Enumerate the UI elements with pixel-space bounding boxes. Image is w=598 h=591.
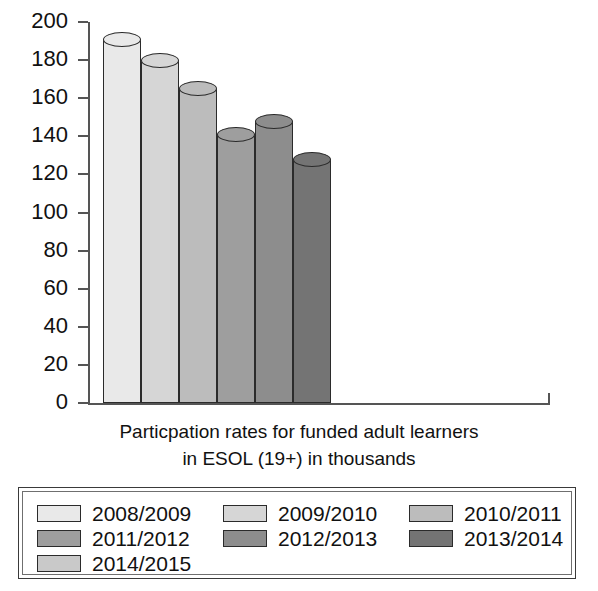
legend-label: 2010/2011	[464, 503, 562, 524]
bar-2012-2013	[255, 114, 293, 403]
y-axis-tick	[78, 21, 88, 23]
legend-label: 2013/2014	[464, 528, 563, 549]
legend-item-2012-2013: 2012/2013	[223, 528, 409, 549]
x-axis-line	[88, 403, 548, 405]
legend-item-2009-2010: 2009/2010	[223, 503, 409, 524]
x-axis-end-tick	[548, 393, 550, 405]
y-axis-tick-label: 180	[0, 48, 68, 70]
bar-body	[255, 121, 293, 403]
y-axis-tick-label: 160	[0, 86, 68, 108]
y-axis-tick-label: 120	[0, 162, 68, 184]
legend-swatch	[37, 530, 81, 547]
y-axis-tick	[78, 326, 88, 328]
bar-body	[293, 159, 331, 403]
y-axis-tick	[78, 59, 88, 61]
legend-item-2010-2011: 2010/2011	[409, 503, 585, 524]
bar-2008-2009	[103, 32, 141, 403]
chart-caption: Particpation rates for funded adult lear…	[0, 418, 598, 472]
legend-item-2014-2015: 2014/2015	[37, 553, 223, 574]
legend-swatch	[223, 505, 267, 522]
y-axis-tick-label: 140	[0, 124, 68, 146]
bar-body	[179, 89, 217, 403]
y-axis-tick-label: 20	[0, 353, 68, 375]
y-axis-tick	[78, 173, 88, 175]
chart-legend: 2008/20092009/20102010/20112011/20122012…	[18, 487, 576, 579]
bar-top-ellipse	[293, 152, 331, 167]
legend-label: 2011/2012	[92, 528, 190, 549]
y-axis-tick-label: 60	[0, 277, 68, 299]
bar-2013-2014	[293, 152, 331, 403]
y-axis-tick-label: 200	[0, 10, 68, 32]
y-axis-tick	[78, 212, 88, 214]
bar-2009-2010	[141, 53, 179, 403]
bar-body	[103, 39, 141, 403]
bar-2011-2012	[217, 127, 255, 403]
legend-swatch	[409, 530, 453, 547]
legend-swatch	[223, 530, 267, 547]
legend-swatch	[37, 505, 81, 522]
y-axis-tick	[78, 288, 88, 290]
legend-item-2013-2014: 2013/2014	[409, 528, 585, 549]
caption-line-1: Particpation rates for funded adult lear…	[0, 418, 598, 445]
y-axis-tick-label: 80	[0, 239, 68, 261]
y-axis-tick-label: 100	[0, 201, 68, 223]
legend-swatch	[409, 505, 453, 522]
legend-item-2008-2009: 2008/2009	[37, 503, 223, 524]
bar-top-ellipse	[141, 53, 179, 68]
bar-top-ellipse	[217, 127, 255, 142]
y-axis-tick-label: 40	[0, 315, 68, 337]
caption-line-2: in ESOL (19+) in thousands	[0, 445, 598, 472]
bar-2010-2011	[179, 81, 217, 403]
y-axis-line	[88, 22, 90, 405]
legend-label: 2008/2009	[92, 503, 191, 524]
legend-grid: 2008/20092009/20102010/20112011/20122012…	[37, 501, 563, 576]
y-axis-tick	[78, 402, 88, 404]
bar-body	[141, 60, 179, 403]
y-axis-tick	[78, 250, 88, 252]
y-axis-tick	[78, 97, 88, 99]
legend-label: 2012/2013	[278, 528, 377, 549]
legend-item-2011-2012: 2011/2012	[37, 528, 223, 549]
y-axis-tick	[78, 135, 88, 137]
bar-body	[217, 134, 255, 403]
y-axis-tick	[78, 364, 88, 366]
bar-top-ellipse	[103, 32, 141, 47]
plot-area: 200180160140120100806040200	[0, 0, 598, 430]
chart-figure: 200180160140120100806040200 Particpation…	[0, 0, 598, 591]
legend-swatch	[37, 555, 81, 572]
bar-top-ellipse	[255, 114, 293, 129]
legend-inner-border: 2008/20092009/20102010/20112011/20122012…	[22, 491, 572, 575]
legend-label: 2009/2010	[278, 503, 377, 524]
legend-label: 2014/2015	[92, 553, 191, 574]
y-axis-tick-label: 0	[0, 391, 68, 413]
